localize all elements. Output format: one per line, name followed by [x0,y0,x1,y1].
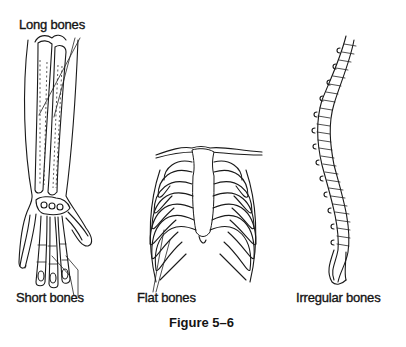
rib-cage-illustration [150,147,262,293]
bones-illustration [0,0,406,347]
forearm-hand-illustration [19,35,92,296]
spine-illustration [312,36,356,284]
